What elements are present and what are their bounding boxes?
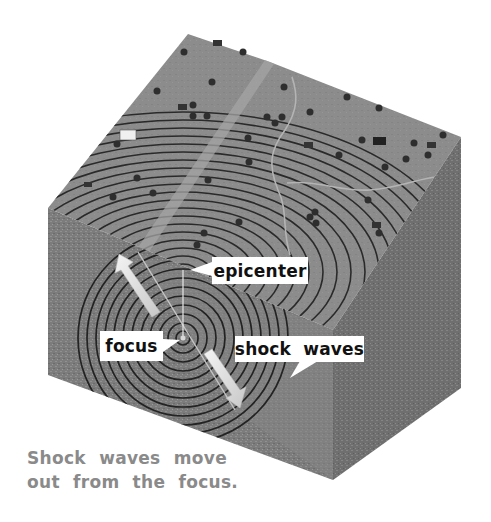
shock-waves-label: shock waves <box>235 336 364 362</box>
house-icon <box>372 222 381 228</box>
house-icon <box>120 130 136 140</box>
house-icon <box>213 40 222 46</box>
shock-waves-label-text: shock waves <box>235 339 364 359</box>
epicenter-label-text: epicenter <box>213 261 306 281</box>
caption-line-1: Shock waves move <box>27 446 247 470</box>
focus-point <box>181 336 186 341</box>
house-icon <box>178 104 187 110</box>
house-icon <box>427 142 436 148</box>
house-icon <box>304 142 313 148</box>
house-icon <box>373 137 386 145</box>
house-icon <box>84 182 92 187</box>
caption-line-2: out from the focus. <box>27 470 247 494</box>
caption: Shock waves move out from the focus. <box>27 446 247 494</box>
epicenter-label: epicenter <box>212 257 308 284</box>
focus-label-text: focus <box>105 336 157 356</box>
focus-label: focus <box>100 331 163 361</box>
